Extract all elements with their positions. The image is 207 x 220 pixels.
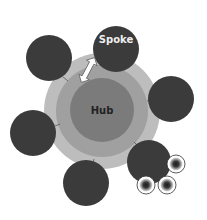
sub-node-core — [170, 158, 183, 171]
sub-node[interactable] — [158, 176, 176, 194]
spoke-label: Spoke — [99, 34, 134, 45]
hub-label: Hub — [91, 105, 114, 116]
spoke-node-upper-left[interactable] — [26, 35, 72, 81]
spoke-node-bottom[interactable] — [63, 160, 109, 206]
sub-node-core — [161, 179, 174, 192]
hub-spoke-diagram: Hub Spoke — [0, 0, 207, 220]
sub-node-core — [140, 179, 153, 192]
sub-node[interactable] — [167, 155, 185, 173]
spoke-node-left[interactable] — [10, 110, 56, 156]
spoke-node-right[interactable] — [148, 76, 194, 122]
sub-node[interactable] — [137, 176, 155, 194]
spoke-node-top[interactable] — [93, 26, 139, 72]
